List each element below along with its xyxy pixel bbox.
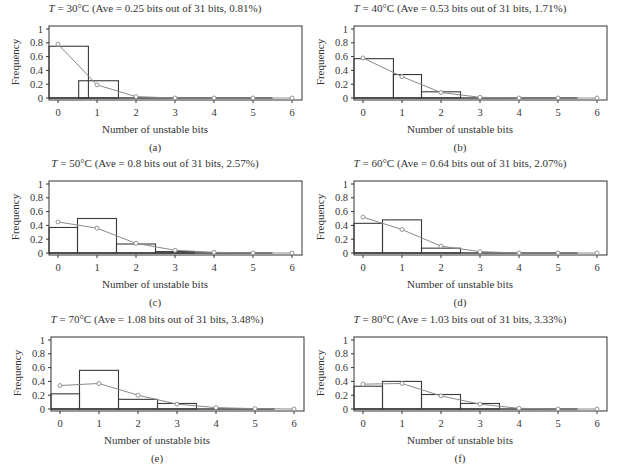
y-tick-label: 0.2 [335,390,348,401]
histogram-bar [354,223,383,253]
y-tick-label: 0.2 [30,234,43,245]
y-tick-label: 1 [38,179,43,190]
y-tick-label: 0.4 [32,376,46,387]
x-tick-label: 0 [55,262,60,273]
y-tick-label: 1 [343,24,348,35]
chart-panel-d: T = 60°C (Ave = 0.64 bits out of 31 bits… [305,155,615,313]
x-tick-label: 6 [291,418,296,429]
y-tick-label: 1 [343,179,348,190]
x-tick-label: 0 [55,107,60,118]
x-tick-label: 2 [133,107,138,118]
y-tick-label: 0.2 [335,234,348,245]
x-tick-label: 1 [399,418,404,429]
y-tick-label: 0.8 [32,348,45,359]
curve-marker [58,384,62,388]
y-tick-label: 0.8 [30,37,43,48]
x-axis-label: Number of unstable bits [305,434,615,446]
y-tick-label: 0.8 [30,192,43,203]
curve-marker [361,382,365,386]
curve-marker [595,251,599,255]
histogram-bar [354,59,393,98]
panel-caption: (e) [2,452,312,464]
histogram-bar [80,370,119,409]
curve-marker [56,220,60,224]
histogram-bar [422,248,461,253]
histogram-bar [119,399,158,409]
panel-caption: (a) [0,141,310,153]
curve-marker [400,228,404,232]
x-tick-label: 6 [594,262,599,273]
x-tick-label: 3 [172,262,177,273]
curve-marker [517,251,521,255]
y-tick-label: 1 [343,335,348,346]
x-axis-label: Number of unstable bits [305,278,615,290]
curve-marker [556,96,560,100]
y-tick-label: 1 [38,24,43,35]
y-tick-label: 0.6 [30,51,43,62]
x-tick-label: 0 [360,262,365,273]
chart-panel-e: T = 70°C (Ave = 1.08 bits out of 31 bits… [2,311,312,469]
y-tick-label: 0.8 [335,348,348,359]
x-tick-label: 5 [555,262,560,273]
curve-marker [175,402,179,406]
x-tick-label: 4 [516,107,522,118]
x-tick-label: 4 [516,418,522,429]
x-tick-label: 0 [360,418,365,429]
histogram-bar [354,386,383,409]
curve-marker [478,250,482,254]
y-tick-label: 0.6 [335,206,348,217]
curve-marker [95,83,99,87]
curve-marker [361,56,365,60]
x-tick-label: 2 [438,262,443,273]
y-tick-label: 0.4 [335,65,349,76]
x-tick-label: 3 [174,418,179,429]
y-tick-label: 0.4 [335,220,349,231]
x-tick-label: 3 [477,107,482,118]
x-tick-label: 5 [250,107,255,118]
x-tick-label: 1 [399,262,404,273]
curve-marker [97,381,101,385]
x-tick-label: 4 [211,107,217,118]
curve-marker [439,90,443,94]
panel-caption: (b) [305,141,615,153]
x-tick-label: 1 [96,418,101,429]
curve-marker [478,95,482,99]
x-tick-label: 2 [133,262,138,273]
x-tick-label: 3 [172,107,177,118]
panel-caption: (c) [0,296,310,308]
y-tick-label: 0.4 [30,65,44,76]
histogram-bar [78,219,117,254]
x-tick-label: 5 [250,262,255,273]
y-tick-label: 0.8 [335,192,348,203]
curve-marker [556,407,560,411]
x-tick-label: 6 [594,418,599,429]
y-tick-label: 0.6 [30,206,43,217]
x-tick-label: 5 [252,418,257,429]
curve-marker [136,393,140,397]
curve-marker [251,96,255,100]
y-tick-label: 0.4 [30,220,44,231]
curve-marker [173,96,177,100]
y-tick-label: 0.6 [32,362,45,373]
curve-marker [95,226,99,230]
curve-marker [439,394,443,398]
y-tick-label: 0 [38,93,43,104]
y-tick-label: 0.2 [32,390,45,401]
y-tick-label: 0 [343,248,348,259]
x-tick-label: 2 [438,418,443,429]
y-tick-label: 0 [40,404,45,415]
x-tick-label: 5 [555,107,560,118]
histogram-bar [49,227,78,253]
curve-marker [595,407,599,411]
x-tick-label: 4 [211,262,217,273]
curve-marker [134,241,138,245]
y-tick-label: 0 [343,404,348,415]
curve-marker [290,96,294,100]
x-tick-label: 2 [438,107,443,118]
y-tick-label: 0 [38,248,43,259]
x-axis-label: Number of unstable bits [0,278,310,290]
curve-marker [439,244,443,248]
x-axis-label: Number of unstable bits [0,123,310,135]
x-tick-label: 6 [289,107,294,118]
curve-marker [173,248,177,252]
